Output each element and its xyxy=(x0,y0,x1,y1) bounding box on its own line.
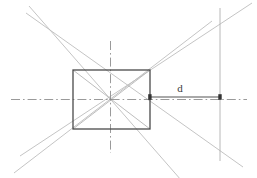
technical-drawing-canvas: d xyxy=(0,0,257,178)
dimension-d-end-tick-icon xyxy=(218,94,221,100)
dimension-d-label: d xyxy=(177,82,183,94)
dimension-d-group: d xyxy=(148,82,222,100)
ray-lower-right-line xyxy=(26,13,243,167)
technical-drawing-svg: d xyxy=(0,0,257,178)
ray-upper-left-line xyxy=(29,6,202,178)
construction-lines-group xyxy=(14,3,252,178)
dimension-d-start-tick-icon xyxy=(148,94,151,100)
center-point-marker xyxy=(109,98,111,100)
ray-upper-right-line xyxy=(20,3,252,156)
